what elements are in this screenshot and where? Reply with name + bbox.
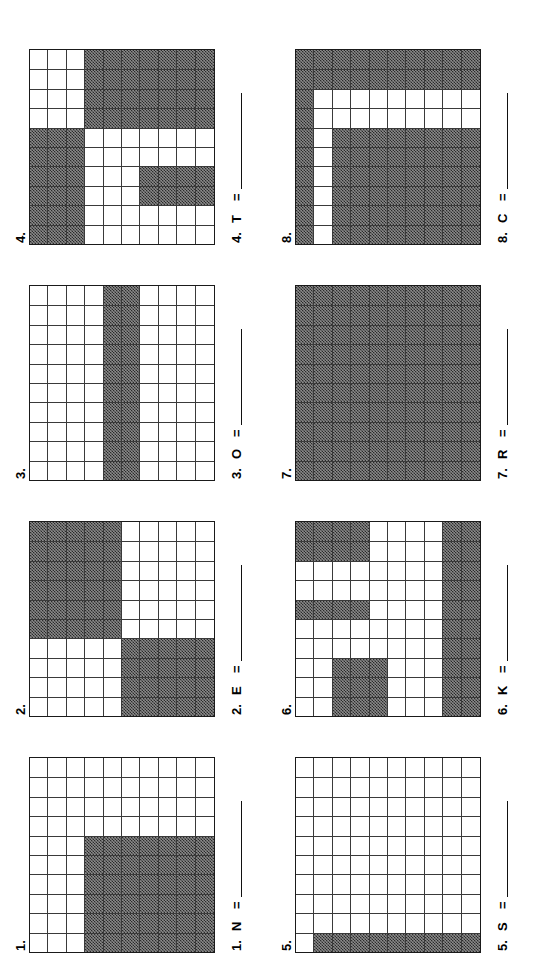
grid-cell-empty[interactable]	[85, 286, 103, 305]
grid-cell-empty[interactable]	[159, 205, 177, 224]
grid-cell-empty[interactable]	[177, 580, 195, 599]
grid-cell-empty[interactable]	[48, 325, 66, 344]
grid-cell-empty[interactable]	[333, 777, 351, 796]
grid-cell-empty[interactable]	[314, 580, 332, 599]
grid-cell-empty[interactable]	[122, 128, 140, 147]
grid-cell-empty[interactable]	[425, 836, 443, 855]
grid-cell-empty[interactable]	[388, 600, 406, 619]
grid-cell-empty[interactable]	[462, 108, 480, 127]
grid-cell-empty[interactable]	[159, 147, 177, 166]
grid-cell-shaded[interactable]	[122, 69, 140, 88]
grid-cell-empty[interactable]	[333, 836, 351, 855]
grid-cell-empty[interactable]	[296, 561, 314, 580]
grid-cell-shaded[interactable]	[67, 166, 85, 185]
grid-cell-shaded[interactable]	[443, 422, 461, 441]
grid-cell-shaded[interactable]	[30, 561, 48, 580]
grid-cell-shaded[interactable]	[406, 383, 424, 402]
grid-cell-empty[interactable]	[48, 422, 66, 441]
grid-cell-empty[interactable]	[140, 561, 158, 580]
grid-cell-empty[interactable]	[314, 894, 332, 913]
grid-cell-shaded[interactable]	[296, 286, 314, 305]
grid-cell-shaded[interactable]	[296, 522, 314, 541]
grid-cell-shaded[interactable]	[333, 344, 351, 363]
grid-cell-shaded[interactable]	[296, 305, 314, 324]
grid-cell-empty[interactable]	[159, 225, 177, 244]
grid-cell-empty[interactable]	[159, 600, 177, 619]
grid-cell-shaded[interactable]	[314, 286, 332, 305]
grid-cell-shaded[interactable]	[425, 186, 443, 205]
grid-cell-empty[interactable]	[333, 855, 351, 874]
grid-cell-empty[interactable]	[314, 638, 332, 657]
grid-cell-shaded[interactable]	[443, 147, 461, 166]
grid-cell-empty[interactable]	[314, 874, 332, 893]
grid-cell-shaded[interactable]	[122, 325, 140, 344]
grid-cell-shaded[interactable]	[122, 874, 140, 893]
grid-cell-empty[interactable]	[406, 874, 424, 893]
grid-cell-shaded[interactable]	[388, 364, 406, 383]
grid-cell-shaded[interactable]	[370, 933, 388, 952]
grid-cell-shaded[interactable]	[104, 561, 122, 580]
grid-cell-empty[interactable]	[406, 561, 424, 580]
grid-cell-empty[interactable]	[333, 619, 351, 638]
grid-cell-empty[interactable]	[85, 344, 103, 363]
grid-cell-shaded[interactable]	[140, 658, 158, 677]
grid-cell-shaded[interactable]	[67, 619, 85, 638]
grid-cell-shaded[interactable]	[406, 441, 424, 460]
grid-cell-shaded[interactable]	[443, 658, 461, 677]
grid-cell-empty[interactable]	[177, 461, 195, 480]
grid-cell-empty[interactable]	[67, 913, 85, 932]
grid-cell-empty[interactable]	[67, 758, 85, 777]
grid-cell-empty[interactable]	[140, 441, 158, 460]
grid-cell-shaded[interactable]	[159, 855, 177, 874]
grid-cell-empty[interactable]	[48, 677, 66, 696]
grid-cell-empty[interactable]	[296, 913, 314, 932]
grid-cell-shaded[interactable]	[196, 166, 214, 185]
grid-cell-shaded[interactable]	[370, 69, 388, 88]
grid-cell-empty[interactable]	[67, 108, 85, 127]
grid-cell-shaded[interactable]	[85, 108, 103, 127]
grid-cell-empty[interactable]	[443, 816, 461, 835]
grid-cell-empty[interactable]	[30, 286, 48, 305]
grid-cell-shaded[interactable]	[177, 89, 195, 108]
grid-cell-empty[interactable]	[140, 205, 158, 224]
grid-cell-shaded[interactable]	[314, 441, 332, 460]
grid-cell-shaded[interactable]	[443, 325, 461, 344]
grid-cell-empty[interactable]	[314, 89, 332, 108]
grid-cell-empty[interactable]	[388, 541, 406, 560]
grid-cell-empty[interactable]	[30, 894, 48, 913]
grid-cell-shaded[interactable]	[333, 128, 351, 147]
grid-cell-empty[interactable]	[67, 441, 85, 460]
grid-cell-shaded[interactable]	[104, 441, 122, 460]
grid-cell-shaded[interactable]	[406, 147, 424, 166]
grid-cell-empty[interactable]	[104, 697, 122, 716]
grid-cell-empty[interactable]	[30, 638, 48, 657]
grid-cell-empty[interactable]	[48, 638, 66, 657]
grid-cell-shaded[interactable]	[462, 638, 480, 657]
grid-cell-empty[interactable]	[85, 383, 103, 402]
grid-cell-shaded[interactable]	[406, 325, 424, 344]
grid-cell-empty[interactable]	[177, 325, 195, 344]
grid-cell-empty[interactable]	[159, 522, 177, 541]
grid-cell-shaded[interactable]	[177, 50, 195, 69]
grid-cell-empty[interactable]	[30, 658, 48, 677]
grid-cell-empty[interactable]	[85, 205, 103, 224]
grid-cell-empty[interactable]	[406, 913, 424, 932]
grid-cell-shaded[interactable]	[122, 50, 140, 69]
grid-cell-empty[interactable]	[443, 874, 461, 893]
grid-cell-shaded[interactable]	[159, 836, 177, 855]
answer-blank-3[interactable]	[230, 329, 242, 425]
grid-cell-empty[interactable]	[314, 619, 332, 638]
grid-cell-shaded[interactable]	[159, 638, 177, 657]
grid-cell-empty[interactable]	[48, 305, 66, 324]
grid-cell-shaded[interactable]	[85, 894, 103, 913]
grid-cell-shaded[interactable]	[122, 855, 140, 874]
grid-cell-shaded[interactable]	[406, 933, 424, 952]
answer-blank-7[interactable]	[496, 329, 508, 425]
grid-cell-empty[interactable]	[122, 166, 140, 185]
grid-cell-shaded[interactable]	[296, 128, 314, 147]
grid-cell-shaded[interactable]	[351, 286, 369, 305]
grid-cell-shaded[interactable]	[67, 522, 85, 541]
grid-cell-shaded[interactable]	[159, 874, 177, 893]
grid-cell-empty[interactable]	[425, 600, 443, 619]
grid-cell-shaded[interactable]	[67, 147, 85, 166]
